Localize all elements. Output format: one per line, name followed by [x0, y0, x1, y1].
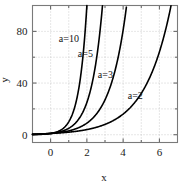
x-tick-label: 4 — [120, 146, 126, 158]
curve-labels-group: a=10a=5a=3a=2 — [59, 33, 143, 101]
y-tick-label: 0 — [22, 129, 28, 141]
curve-label-a10: a=10 — [59, 33, 79, 44]
y-tick-label: 40 — [17, 77, 29, 89]
x-tick-label: 6 — [157, 146, 163, 158]
curve-label-a5: a=5 — [78, 48, 93, 59]
curve-label-a3: a=3 — [98, 69, 113, 80]
exponential-functions-chart: a=10a=5a=3a=2 0246 04080 x y — [0, 0, 188, 190]
x-axis-tick-labels: 0246 — [48, 146, 163, 158]
y-axis-tick-labels: 04080 — [17, 25, 29, 140]
y-axis-title: y — [0, 77, 10, 83]
y-tick-label: 80 — [17, 25, 29, 37]
x-tick-label: 0 — [48, 146, 54, 158]
chart-canvas: a=10a=5a=3a=2 0246 04080 x y — [0, 0, 188, 190]
x-tick-label: 2 — [84, 146, 90, 158]
curve-label-a2: a=2 — [128, 90, 143, 101]
x-axis-title: x — [101, 171, 107, 183]
